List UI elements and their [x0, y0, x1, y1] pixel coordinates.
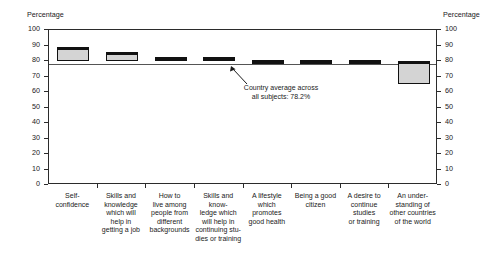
category-label-5-line-2: which [258, 201, 276, 208]
y-tick-right-40 [437, 122, 441, 123]
country-average-annotation: Country average across all subjects: 78.… [228, 84, 334, 101]
y-tick-label-left-50: 50 [20, 103, 40, 111]
y-tick-right-20 [437, 153, 441, 154]
y-tick-right-80 [437, 60, 441, 61]
y-tick-left-0 [44, 184, 48, 185]
y-tick-right-60 [437, 91, 441, 92]
annotation-line-2: all subjects: 78.2% [252, 93, 310, 100]
category-label-4-line-2: ledge which [200, 209, 237, 216]
y-tick-label-left-30: 30 [20, 134, 40, 142]
category-label-1-line-1: Self- [65, 192, 79, 199]
bar-7 [349, 60, 381, 64]
annotation-arrow-icon [228, 66, 250, 86]
category-label-7-line-3: studies [353, 209, 375, 216]
y-tick-right-30 [437, 138, 441, 139]
bar-5 [252, 60, 284, 64]
category-label-3-line-2: live among [153, 201, 187, 208]
x-tick-4 [243, 184, 244, 188]
y-tick-label-right-60: 60 [445, 87, 465, 95]
category-label-3: How tolive amongpeople fromdifferentback… [145, 192, 194, 235]
y-tick-label-left-0: 0 [20, 180, 40, 188]
x-tick-2 [145, 184, 146, 188]
bar-4 [203, 57, 235, 61]
bar-2 [106, 52, 138, 61]
category-label-1-line-2: confidence [55, 201, 89, 208]
x-tick-3 [194, 184, 195, 188]
annotation-line-1: Country average across [244, 84, 318, 91]
category-label-8-line-2: standing of [396, 201, 430, 208]
y-tick-label-left-100: 100 [20, 25, 40, 33]
x-tick-6 [340, 184, 341, 188]
y-tick-right-90 [437, 45, 441, 46]
category-label-7-line-4: or training [348, 218, 379, 225]
category-label-5-line-1: A lifestyle [252, 192, 282, 199]
y-tick-label-left-20: 20 [20, 149, 40, 157]
y-tick-label-left-70: 70 [20, 72, 40, 80]
bar-6 [300, 60, 332, 64]
category-label-3-line-3: people from [151, 209, 188, 216]
y-tick-label-right-20: 20 [445, 149, 465, 157]
y-tick-label-left-80: 80 [20, 56, 40, 64]
category-label-8: An under-standing ofother countriesof th… [388, 192, 437, 226]
category-label-4-line-4: continuing stu- [195, 226, 241, 233]
category-label-3-line-1: How to [159, 192, 181, 199]
y-tick-label-right-0: 0 [445, 180, 465, 188]
category-label-5-line-4: good health [249, 218, 286, 225]
y-tick-label-right-10: 10 [445, 165, 465, 173]
category-label-3-line-5: backgrounds [150, 226, 190, 233]
plot-area [48, 29, 437, 184]
y-tick-label-right-30: 30 [445, 134, 465, 142]
y-tick-label-right-50: 50 [445, 103, 465, 111]
y-tick-label-right-100: 100 [445, 25, 465, 33]
category-label-2-line-2: knowledge [104, 201, 137, 208]
category-label-8-line-1: An under- [397, 192, 428, 199]
category-label-8-line-3: other countries [390, 209, 436, 216]
category-label-6: Being a goodcitizen [291, 192, 340, 209]
left-axis-caption: Percentage [27, 10, 64, 19]
category-label-2: Skills andknowledgewhich willhelp ingett… [97, 192, 146, 235]
bar-chart: Percentage Percentage 100100909080807070… [0, 0, 493, 254]
y-tick-right-0 [437, 184, 441, 185]
category-label-1: Self-confidence [48, 192, 97, 209]
category-label-2-line-4: help in [111, 218, 132, 225]
category-label-5-line-3: promotes [252, 209, 281, 216]
category-label-4-line-5: dies or training [195, 235, 241, 242]
y-tick-right-100 [437, 29, 441, 30]
y-tick-right-70 [437, 76, 441, 77]
category-label-6-line-1: Being a good [295, 192, 336, 199]
y-tick-label-left-10: 10 [20, 165, 40, 173]
x-tick-5 [291, 184, 292, 188]
bar-3 [155, 57, 187, 61]
category-label-2-line-5: getting a job [102, 226, 140, 233]
y-tick-label-right-90: 90 [445, 41, 465, 49]
y-tick-label-left-40: 40 [20, 118, 40, 126]
category-label-5: A lifestylewhichpromotesgood health [243, 192, 292, 226]
category-label-2-line-1: Skills and [106, 192, 136, 199]
category-label-7-line-1: A desire to [348, 192, 381, 199]
y-tick-label-left-60: 60 [20, 87, 40, 95]
category-label-3-line-4: different [157, 218, 182, 225]
category-label-7-line-2: continue [351, 201, 377, 208]
y-tick-label-right-70: 70 [445, 72, 465, 80]
category-label-6-line-2: citizen [306, 201, 326, 208]
x-tick-1 [97, 184, 98, 188]
x-tick-7 [388, 184, 389, 188]
category-label-4: Skills and know-ledge whichwill help inc… [194, 192, 243, 244]
category-label-4-line-3: will help in [202, 218, 234, 225]
category-label-8-line-4: of the world [395, 218, 431, 225]
category-label-7: A desire tocontinuestudiesor training [340, 192, 389, 226]
y-tick-right-10 [437, 169, 441, 170]
category-label-4-line-1: Skills and know- [203, 192, 233, 208]
bar-8 [398, 61, 430, 84]
right-axis-caption: Percentage [443, 10, 480, 19]
category-label-2-line-3: which will [106, 209, 136, 216]
y-tick-label-right-40: 40 [445, 118, 465, 126]
bar-1 [57, 47, 89, 61]
y-tick-label-right-80: 80 [445, 56, 465, 64]
y-tick-label-left-90: 90 [20, 41, 40, 49]
y-tick-right-50 [437, 107, 441, 108]
